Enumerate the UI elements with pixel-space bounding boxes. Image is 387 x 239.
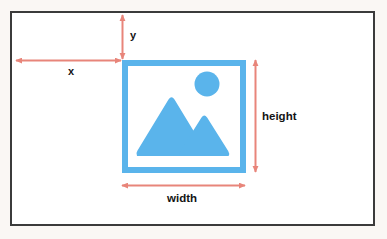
dimension-label-y: y bbox=[130, 30, 136, 41]
dimension-label-width: width bbox=[167, 193, 197, 205]
dimension-label-x: x bbox=[68, 66, 74, 77]
diagram-canvas: x y height width bbox=[0, 0, 387, 239]
dimension-label-height: height bbox=[262, 111, 297, 123]
image-icon bbox=[136, 72, 229, 157]
sun-circle bbox=[195, 72, 220, 97]
